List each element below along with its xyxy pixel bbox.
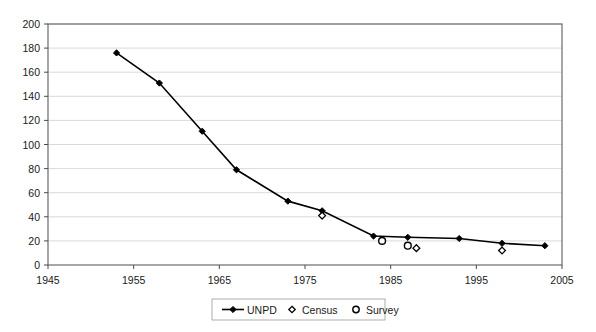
y-tick-label: 100 — [22, 139, 40, 151]
chart-legend: UNPDCensusSurvey — [212, 299, 399, 320]
legend-label: UNPD — [247, 304, 277, 316]
data-point-survey — [379, 238, 386, 245]
legend-label: Survey — [366, 304, 399, 316]
y-tick-label: 40 — [28, 211, 40, 223]
y-tick-label: 180 — [22, 42, 40, 54]
x-tick-label: 1985 — [379, 274, 403, 286]
x-tick-label: 1975 — [293, 274, 317, 286]
y-tick-label: 0 — [34, 259, 40, 271]
y-tick-label: 80 — [28, 163, 40, 175]
y-tick-label: 160 — [22, 66, 40, 78]
x-tick-label: 1945 — [36, 274, 60, 286]
x-tick-label: 2005 — [550, 274, 574, 286]
x-tick-label: 1995 — [465, 274, 489, 286]
legend-open-circle-icon — [353, 306, 359, 312]
y-tick-label: 20 — [28, 235, 40, 247]
legend-label: Census — [302, 304, 338, 316]
y-tick-label: 120 — [22, 114, 40, 126]
data-point-survey — [404, 242, 411, 249]
y-tick-label: 60 — [28, 187, 40, 199]
legend-entries: UNPDCensusSurvey — [222, 304, 399, 316]
y-tick-label: 140 — [22, 90, 40, 102]
chart-container: 020406080100120140160180200 194519551965… — [0, 0, 596, 332]
line-chart: 020406080100120140160180200 194519551965… — [0, 0, 596, 332]
y-tick-label: 200 — [22, 18, 40, 30]
x-tick-label: 1965 — [208, 274, 232, 286]
x-tick-label: 1955 — [122, 274, 146, 286]
